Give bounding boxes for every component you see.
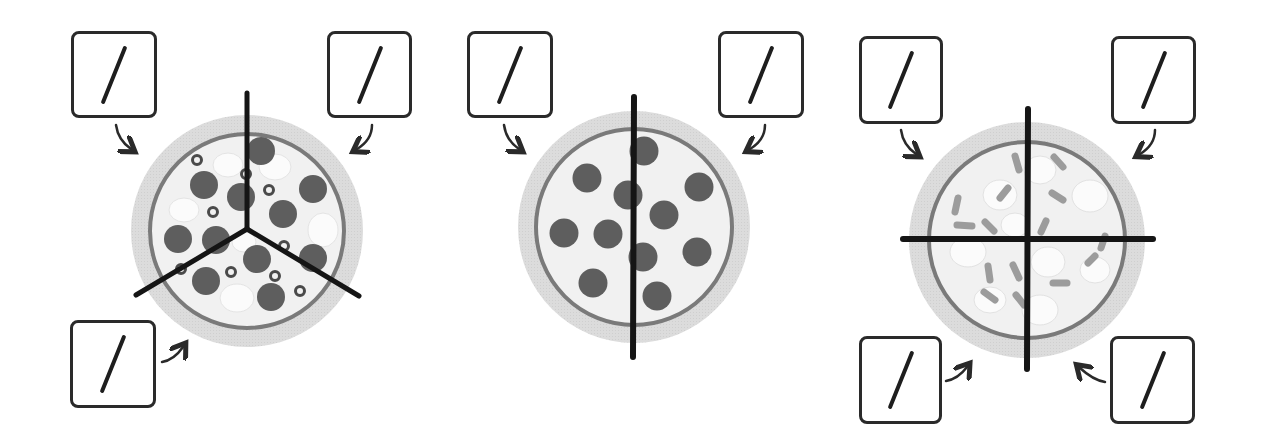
fraction-box-thirds-bottom-left[interactable]: / [70,320,156,408]
fraction-slash-icon [888,51,915,110]
fraction-slash-icon [100,335,127,394]
fraction-slash-icon [887,351,914,410]
fraction-symbol: / [470,34,471,35]
fraction-box-halves-right[interactable]: / [718,31,804,118]
pizza-illustrations [0,0,1267,443]
fraction-slash-icon [1139,351,1166,410]
cut-line-halves [633,97,634,357]
cut-lines-quarters [903,109,1153,369]
fraction-slash-icon [356,45,383,104]
fraction-symbol: / [862,339,863,340]
fraction-symbol: / [1113,339,1114,340]
fraction-symbol: / [862,39,863,40]
fraction-slash-icon [748,45,775,104]
fraction-box-quarters-bottom-left[interactable]: / [859,336,942,424]
fraction-box-halves-left[interactable]: / [467,31,553,118]
fraction-symbol: / [330,34,331,35]
fraction-symbol: / [74,34,75,35]
fraction-box-quarters-top-left[interactable]: / [859,36,943,124]
fraction-symbol: / [721,34,722,35]
fraction-box-quarters-bottom-right[interactable]: / [1110,336,1195,424]
fraction-box-thirds-top-right[interactable]: / [327,31,412,118]
fraction-box-thirds-top-left[interactable]: / [71,31,157,118]
fraction-box-quarters-top-right[interactable]: / [1111,36,1196,124]
pizza-thirds [116,93,372,362]
fraction-symbol: / [1114,39,1115,40]
fraction-slash-icon [497,45,524,104]
pizza-halves [504,97,765,357]
fraction-symbol: / [73,323,74,324]
fraction-slash-icon [1140,51,1167,110]
fractions-worksheet: / / / / / / / / / [0,0,1267,443]
fraction-slash-icon [101,45,128,104]
